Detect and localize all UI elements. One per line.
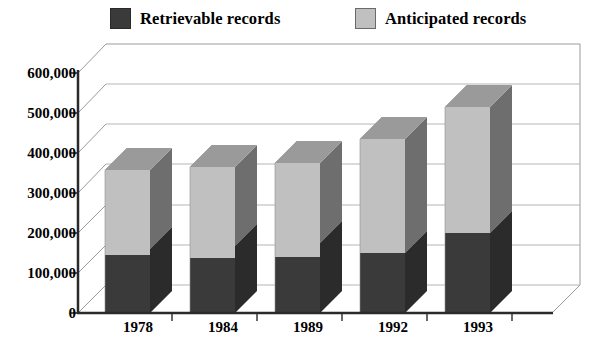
bar-group-1989[interactable] [275,141,342,313]
bar-segment-retrievable-1992 [360,253,405,313]
bar-segment-retrievable-1989 [275,257,320,313]
bar-group-1992[interactable] [360,117,427,313]
y-tick-200000: 200,000 [4,226,76,241]
y-tick-100000: 100,000 [4,266,76,281]
bar-segment-anticipated-1993 [445,107,490,233]
x-axis-labels: 1978 1984 1989 1992 1993 [0,320,604,346]
plot-area: 600,000 500,000 400,000 300,000 200,000 … [0,0,604,350]
bar-segment-anticipated-1992 [360,139,405,253]
y-axis-labels: 600,000 500,000 400,000 300,000 200,000 … [0,0,76,350]
y-tick-300000: 300,000 [4,186,76,201]
bar-segment-retrievable-1978 [105,255,150,313]
x-tick-1993: 1993 [443,320,513,335]
bar-segment-retrievable-1993 [445,233,490,313]
y-tick-500000: 500,000 [4,106,76,121]
bar-group-1978[interactable] [105,148,172,313]
x-tick-1978: 1978 [103,320,173,335]
y-tick-400000: 400,000 [4,146,76,161]
x-tick-1984: 1984 [188,320,258,335]
bar-segment-anticipated-1989 [275,163,320,257]
chart-root: Retrievable records Anticipated records [0,0,604,350]
x-tick-1992: 1992 [358,320,428,335]
y-tick-600000: 600,000 [4,66,76,81]
bar-group-1993[interactable] [445,85,512,313]
y-tick-0: 0 [4,306,76,321]
bar-segment-retrievable-1984 [190,258,235,313]
bar-group-1984[interactable] [190,145,257,313]
x-tick-1989: 1989 [273,320,343,335]
bar-segment-anticipated-1984 [190,167,235,258]
bar-segment-anticipated-1978 [105,170,150,255]
plot-svg [0,0,604,350]
